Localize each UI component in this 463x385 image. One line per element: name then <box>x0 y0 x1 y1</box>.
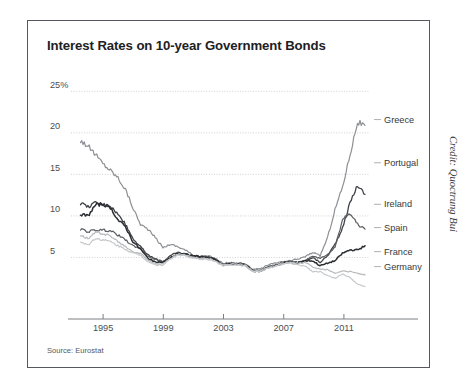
x-tick-label: 1995 <box>93 323 113 333</box>
series-label-spain: Spain <box>384 223 408 233</box>
credit-line: Credit: Quoctrung Bui <box>448 136 459 232</box>
chart-figure: Interest Rates on 10-year Government Bon… <box>27 20 430 368</box>
line-chart-svg: 510152025% 19951999200320072011 GreecePo… <box>28 21 431 369</box>
x-tick-label: 2011 <box>334 323 354 333</box>
plot-area: 510152025% 19951999200320072011 GreecePo… <box>28 21 429 367</box>
series-label-greece: Greece <box>384 115 414 125</box>
y-tick-label: 20 <box>50 121 60 131</box>
y-tick-label: 15 <box>50 163 60 173</box>
series-line-portugal <box>81 187 365 272</box>
x-tick-label: 1999 <box>153 323 173 333</box>
x-axis-tick-labels: 19951999200320072011 <box>93 323 354 333</box>
y-axis-tick-labels: 510152025% <box>50 80 68 256</box>
series-label-germany: Germany <box>384 262 422 272</box>
series-label-france: France <box>384 247 413 257</box>
y-tick-label: 10 <box>50 204 60 214</box>
source-note: Source: Eurostat <box>47 346 104 355</box>
y-tick-label: 25% <box>50 80 68 90</box>
series-label-portugal: Portugal <box>384 158 418 168</box>
x-tick-label: 2003 <box>213 323 233 333</box>
x-axis <box>68 314 418 319</box>
x-tick-label: 2007 <box>273 323 293 333</box>
y-tick-label: 5 <box>50 246 55 256</box>
series-label-ireland: Ireland <box>384 199 412 209</box>
data-series-lines <box>81 120 365 286</box>
series-inline-labels: GreecePortugalIrelandSpainFranceGermany <box>374 115 422 272</box>
